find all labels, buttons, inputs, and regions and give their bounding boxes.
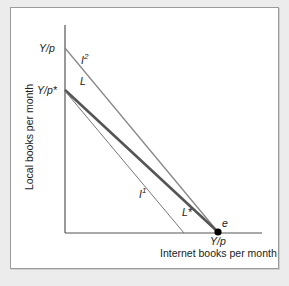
indifference-curve-I1: [65, 91, 184, 233]
y-intercept-label-top: Y/p: [39, 42, 55, 54]
line-label-L-star: L*: [182, 206, 193, 218]
curve-label-I2: I2: [81, 52, 89, 66]
budget-line-L: [65, 48, 218, 232]
line-label-L: L: [80, 75, 86, 87]
curve-label-I1: I1: [139, 186, 146, 200]
budget-line-L-star: [65, 90, 218, 232]
x-axis-label: Internet books per month: [160, 247, 277, 259]
point-label-e: e: [222, 217, 228, 229]
budget-line-diagram: Y/p Y/p* I2 L I1 L* e Y/p Internet books…: [0, 0, 289, 286]
y-intercept-label-lower: Y/p*: [37, 84, 58, 96]
x-intercept-label: Y/p: [210, 235, 226, 247]
y-axis-label: Local books per month: [23, 84, 35, 190]
